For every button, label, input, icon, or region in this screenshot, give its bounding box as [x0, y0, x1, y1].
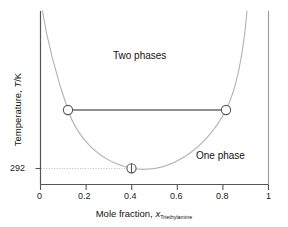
x-tick-label-0.8: 0.8: [216, 191, 229, 201]
phase-diagram-plot: [0, 0, 288, 227]
phase-diagram-figure: 292 0 0.2 0.4 0.6 0.8 1 Two phases One p…: [0, 0, 288, 227]
y-tick-label-292: 292: [10, 163, 25, 173]
x-tick-label-0.2: 0.2: [78, 191, 91, 201]
x-tick-label-0: 0: [37, 191, 42, 201]
tie-line-left-marker: [63, 105, 72, 114]
y-axis-title-symbol: T: [12, 82, 23, 88]
x-axis-title: Mole fraction, xTriethylamine: [0, 208, 288, 219]
one-phase-label: One phase: [196, 150, 245, 161]
x-axis-title-prefix: Mole fraction,: [96, 208, 156, 219]
y-axis-title: Temperature, T/K: [12, 60, 23, 160]
x-axis-ticks: [41, 185, 269, 191]
x-tick-label-0.4: 0.4: [124, 191, 137, 201]
tie-line-right-marker: [221, 105, 230, 114]
two-phases-label: Two phases: [113, 50, 166, 61]
y-axis-title-prefix: Temperature,: [12, 88, 23, 147]
x-tick-label-1: 1: [266, 191, 271, 201]
x-axis-title-subscript: Triethylamine: [160, 214, 192, 220]
phase-boundary-curve: [43, 11, 248, 169]
y-axis-title-suffix: /K: [12, 73, 23, 82]
x-tick-label-0.6: 0.6: [170, 191, 183, 201]
